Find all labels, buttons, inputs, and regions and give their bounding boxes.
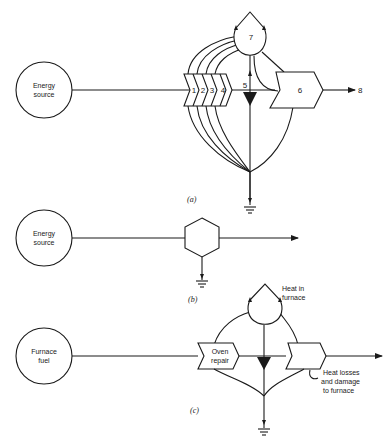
diagram-b: Energy source (b) <box>16 210 298 304</box>
svg-text:source: source <box>33 91 54 98</box>
interaction-stages: 1 2 3 4 <box>184 74 232 106</box>
loss-label-line2: and damage <box>321 378 360 386</box>
stage-3-label: 3 <box>210 86 215 95</box>
loss-label-line3: to furnace <box>323 387 354 394</box>
svg-text:Furnace: Furnace <box>31 348 57 355</box>
lower-line-loss <box>264 369 304 396</box>
caption-a: (a) <box>187 195 197 204</box>
storage-label-line1: Heat in <box>282 285 304 292</box>
diagram-c: Furnace fuel Heat in furnace Oven repair <box>16 284 382 435</box>
oven-repair-interaction: Oven repair <box>198 343 239 369</box>
energy-diagram-canvas: Energy source 1 2 3 <box>0 0 388 445</box>
depreciation-curves-lower <box>188 106 293 172</box>
svg-text:fuel: fuel <box>38 357 50 364</box>
energy-source-b: Energy source <box>16 210 72 266</box>
energy-source-a: Energy source <box>16 62 72 118</box>
storage-to-6-line <box>262 52 284 72</box>
loss-pointer <box>310 370 318 379</box>
storage-7: 7 <box>234 12 266 55</box>
lower-line-repair <box>214 369 264 396</box>
heat-sink-a <box>244 172 256 213</box>
feedback-curves-upper <box>188 36 242 74</box>
furnace-fuel-source: Furnace fuel <box>16 328 72 384</box>
svg-text:7: 7 <box>249 33 254 42</box>
block-6: 6 <box>270 72 323 108</box>
svg-text:Oven: Oven <box>212 348 229 355</box>
stage-1-label: 1 <box>192 86 197 95</box>
svg-text:Energy: Energy <box>33 82 56 90</box>
svg-text:6: 6 <box>298 86 303 95</box>
svg-text:source: source <box>33 239 54 246</box>
loss-label-line1: Heat losses <box>323 369 360 376</box>
switch-triangle-c <box>257 357 271 370</box>
storage-to-6-curve-inner <box>254 56 278 91</box>
output-label-8: 8 <box>358 86 363 95</box>
stage-2-label: 2 <box>201 86 206 95</box>
hexagon-self-limiting-consumer <box>185 218 219 257</box>
curve-loss-to-storage <box>280 312 298 345</box>
caption-b: (b) <box>188 295 198 304</box>
storage-label-line2: furnace <box>282 294 305 301</box>
caption-c: (c) <box>190 406 199 415</box>
heat-losses-block <box>286 343 326 369</box>
curve-repair-to-storage <box>214 312 250 345</box>
heat-sink-b <box>196 257 208 287</box>
storage-heat-in-furnace <box>248 284 282 324</box>
svg-text:5: 5 <box>243 81 248 90</box>
diagram-a: Energy source 1 2 3 <box>16 12 363 213</box>
svg-text:repair: repair <box>211 357 230 365</box>
svg-text:Energy: Energy <box>33 230 56 238</box>
stage-4-label: 4 <box>221 86 226 95</box>
